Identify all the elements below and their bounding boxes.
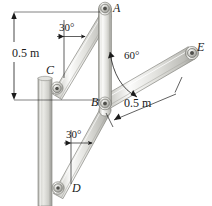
pin-C	[53, 84, 61, 92]
wall-column	[38, 76, 52, 206]
pin-A	[101, 4, 110, 13]
joint-label-a: A	[113, 2, 120, 14]
diagram-canvas	[0, 0, 212, 206]
joint-label-e: E	[197, 41, 204, 53]
dimension-label-left: 0.5 m	[12, 47, 39, 59]
angle-label-60: 60°	[124, 50, 139, 61]
pin-D	[54, 184, 62, 192]
pin-B	[101, 99, 110, 108]
joint-label-d: D	[72, 182, 81, 194]
joint-label-c: C	[46, 64, 54, 76]
angle-label-bottom-30: 30°	[66, 129, 81, 140]
angle-label-top-30: 30°	[59, 22, 74, 33]
pin-E	[188, 49, 197, 58]
joint-label-b: B	[91, 96, 98, 108]
frame-diagram: A B C D E 0.5 m 0.5 m 30° 60° 30°	[0, 0, 212, 206]
dimension-label-right: 0.5 m	[124, 97, 151, 109]
